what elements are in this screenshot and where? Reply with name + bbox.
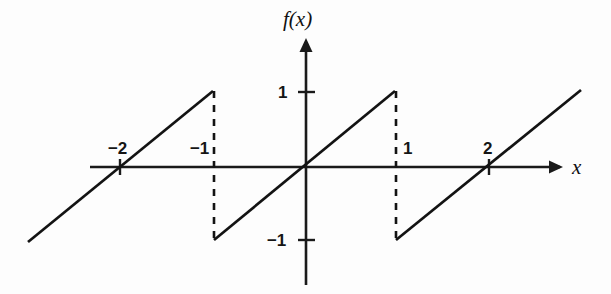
sawtooth-function-figure: −2 −1 1 2 1 −1 f(x) x [0, 0, 611, 294]
x-tick-label-minus2: −2 [108, 140, 127, 157]
x-axis-arrowhead [549, 161, 563, 174]
x-tick-label-2: 2 [483, 140, 492, 157]
y-tick-label-1: 1 [278, 84, 287, 101]
plot-canvas [0, 0, 611, 294]
x-axis-title: x [572, 157, 581, 178]
ramp-segment-center [214, 91, 395, 240]
x-tick-label-1: 1 [403, 140, 412, 157]
y-axis-title: f(x) [283, 9, 312, 30]
y-tick-label-minus1: −1 [267, 232, 286, 249]
x-tick-label-minus1: −1 [190, 140, 209, 157]
y-axis-arrowhead [300, 38, 313, 52]
